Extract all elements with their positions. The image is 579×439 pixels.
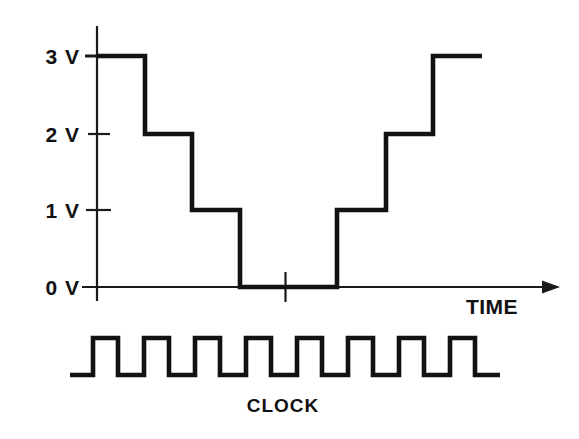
waveform-figure: 3 V 2 V 1 V 0 V TIME CLOCK <box>0 0 579 439</box>
waveform-canvas: 3 V 2 V 1 V 0 V TIME CLOCK <box>0 0 579 439</box>
clock-waveform <box>70 338 500 375</box>
y-tick-label-3v: 3 V <box>45 45 80 68</box>
y-tick-label-2v: 2 V <box>45 123 80 146</box>
clock-signal-label: CLOCK <box>247 395 320 416</box>
arrow-right-icon <box>542 281 560 294</box>
y-tick-label-0v: 0 V <box>45 276 80 299</box>
x-axis-label: TIME <box>466 295 518 318</box>
y-tick-label-1v: 1 V <box>45 199 80 222</box>
staircase-waveform <box>97 56 482 287</box>
